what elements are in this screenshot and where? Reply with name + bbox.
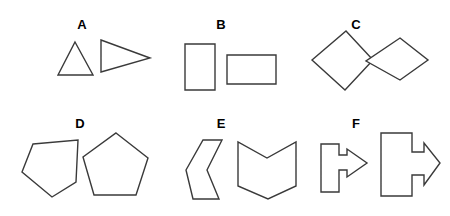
panel-a: A [58,17,150,75]
left-pointing-chevron [186,140,222,199]
wide-rectangle [227,55,276,84]
panel-f: F [321,116,440,196]
figure-canvas: ABCDEF [0,0,450,216]
large-sideways-triangle [101,40,150,72]
large-arrow [381,133,440,196]
panel-c: C [312,17,428,90]
panel-label-d: D [75,116,84,131]
shape-pairs-figure: ABCDEF [0,0,450,216]
small-triangle [58,42,93,75]
panels-layer: ABCDEF [22,17,440,199]
tilted-pentagon [22,140,78,197]
panel-label-b: B [216,17,225,32]
panel-d: D [22,116,148,197]
down-pointing-chevron [238,142,296,199]
panel-label-c: C [351,17,361,32]
panel-label-f: F [352,116,360,131]
flat-rhombus [366,38,428,80]
panel-b: B [185,17,276,90]
panel-label-a: A [77,17,87,32]
panel-label-e: E [217,116,226,131]
upright-pentagon [83,133,148,195]
upright-rhombus [312,31,373,90]
tall-rectangle [185,44,215,90]
small-arrow [321,144,367,192]
panel-e: E [186,116,296,199]
